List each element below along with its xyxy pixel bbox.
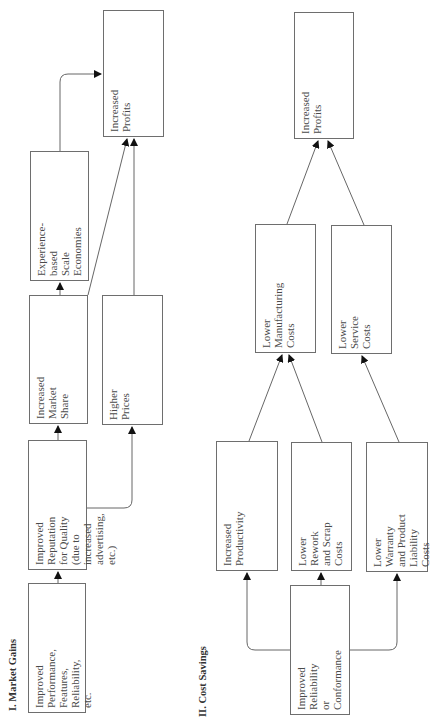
section-title-market-gains: I. Market Gains [7,639,18,711]
box-label: Higher Prices [107,365,131,420]
box-increased-market-share: Increased Market Share [29,295,88,424]
box-label: Lower Service Costs [336,294,372,349]
box-improved-reliability: Improved Reliability or Conformance [290,585,350,715]
box-improved-reputation: Improved Reputation for Quality (due to … [28,440,87,570]
box-scale-economies: Experience-based Scale Economies [30,151,89,281]
box-label: Lower Rework and Scrap Costs [296,511,344,566]
box-lower-warranty: Lower Warranty and Product Liability Cos… [366,442,428,572]
box-lower-service: Lower Service Costs [331,225,392,354]
box-label: Lower Manufacturing Costs [260,283,296,348]
box-higher-prices: Higher Prices [102,295,163,425]
box-label: Experience-based Scale Economies [35,223,83,276]
box-label: Improved Performance, Features, Reliabil… [33,649,93,708]
box-label: Improved Reliability or Conformance [295,650,343,710]
box-lower-manufacturing: Lower Manufacturing Costs [255,224,316,353]
section-title-cost-savings: II. Cost Savings [197,646,208,717]
box-label: Increased Profits [108,77,132,132]
box-lower-rework: Lower Rework and Scrap Costs [291,442,352,571]
box-increased-productivity: Increased Productivity [216,441,278,571]
box-label: Improved Reputation for Quality (due to … [33,512,117,565]
box-improved-performance: Improved Performance, Features, Reliabil… [28,583,86,713]
box-label: Increased Productivity [221,512,245,566]
box-increased-profits-market: Increased Profits [103,10,164,137]
box-increased-profits-cost: Increased Profits [294,12,354,139]
box-label: Increased Profits [299,80,323,134]
box-label: Lower Warranty and Product Liability Cos… [371,511,431,567]
box-label: Increased Market Share [34,366,70,419]
